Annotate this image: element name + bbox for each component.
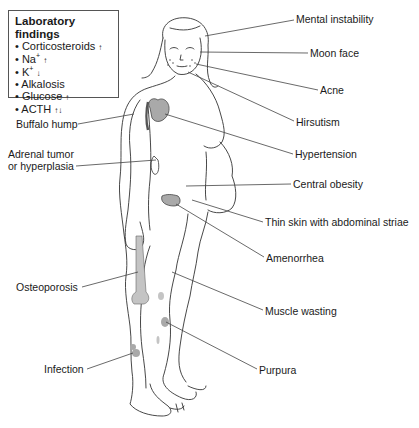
uterus-fill bbox=[162, 195, 180, 207]
label-adrenal-line1: Adrenal tumor bbox=[8, 148, 74, 160]
label-hypertension: Hypertension bbox=[295, 148, 357, 160]
label-acne: Acne bbox=[320, 84, 344, 96]
label-infection: Infection bbox=[44, 363, 84, 375]
arrow-up-icon: ↑ bbox=[43, 56, 47, 65]
heart-fill bbox=[149, 99, 169, 122]
lab-item-acth: • ACTH ↑↓ bbox=[15, 104, 118, 117]
femur-fill bbox=[132, 236, 149, 304]
label-muscle-wasting: Muscle wasting bbox=[265, 305, 337, 317]
laboratory-findings-box: Laboratory findings • Corticosteroids ↑ … bbox=[8, 10, 119, 98]
label-purpura: Purpura bbox=[259, 364, 296, 376]
arrow-up-icon: ↑ bbox=[65, 93, 69, 102]
label-buffalo-hump: Buffalo hump bbox=[16, 118, 78, 130]
lab-box-title: Laboratory findings bbox=[15, 15, 118, 41]
label-thin-skin: Thin skin with abdominal striae bbox=[265, 216, 409, 228]
arrow-up-icon: ↑ bbox=[98, 43, 102, 52]
face bbox=[165, 38, 202, 75]
label-adrenal-line2: or hyperplasia bbox=[8, 160, 74, 172]
label-mental-instability: Mental instability bbox=[296, 13, 374, 25]
arrow-down-icon: ↓ bbox=[36, 69, 40, 78]
label-osteoporosis: Osteoporosis bbox=[16, 281, 78, 293]
label-moon-face: Moon face bbox=[310, 47, 359, 59]
label-central-obesity: Central obesity bbox=[293, 178, 363, 190]
arrow-up-down-icon: ↑↓ bbox=[54, 106, 62, 115]
label-hirsutism: Hirsutism bbox=[296, 116, 340, 128]
label-amenorrhea: Amenorrhea bbox=[266, 252, 324, 264]
